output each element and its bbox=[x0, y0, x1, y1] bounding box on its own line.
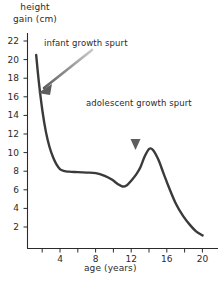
y-axis-ticks bbox=[24, 41, 28, 227]
y-axis-title: height gain (cm) bbox=[4, 2, 66, 25]
y-tick-label-2: 2 bbox=[3, 222, 19, 232]
y-tick-label-10: 10 bbox=[3, 148, 19, 158]
y-tick-label-12: 12 bbox=[3, 129, 19, 139]
y-tick-label-22: 22 bbox=[3, 36, 19, 46]
y-axis-title-line1: height bbox=[4, 2, 66, 14]
y-tick-label-4: 4 bbox=[3, 203, 19, 213]
y-tick-label-8: 8 bbox=[3, 166, 19, 176]
annotation-infant-growth-spurt: infant growth spurt bbox=[44, 38, 128, 48]
chart-figure: height gain (cm) age (years) 22 20 18 16… bbox=[0, 0, 224, 282]
x-tick-label-12: 12 bbox=[122, 254, 140, 264]
y-tick-label-16: 16 bbox=[3, 92, 19, 102]
x-tick-label-20: 20 bbox=[193, 254, 211, 264]
x-tick-label-16: 16 bbox=[158, 254, 176, 264]
x-tick-label-8: 8 bbox=[87, 254, 105, 264]
y-tick-label-14: 14 bbox=[3, 110, 19, 120]
infant-spurt-arrow-icon bbox=[38, 50, 92, 95]
adolescent-spurt-arrow-icon bbox=[131, 107, 141, 150]
y-tick-label-18: 18 bbox=[3, 73, 19, 83]
y-tick-label-6: 6 bbox=[3, 185, 19, 195]
x-axis-ticks bbox=[42, 249, 202, 253]
y-tick-label-20: 20 bbox=[3, 55, 19, 65]
x-tick-label-4: 4 bbox=[51, 254, 69, 264]
annotation-adolescent-growth-spurt: adolescent growth spurt bbox=[86, 98, 192, 108]
height-gain-curve bbox=[36, 55, 202, 235]
y-axis-title-line2: gain (cm) bbox=[4, 14, 66, 26]
x-axis-title: age (years) bbox=[84, 263, 137, 273]
